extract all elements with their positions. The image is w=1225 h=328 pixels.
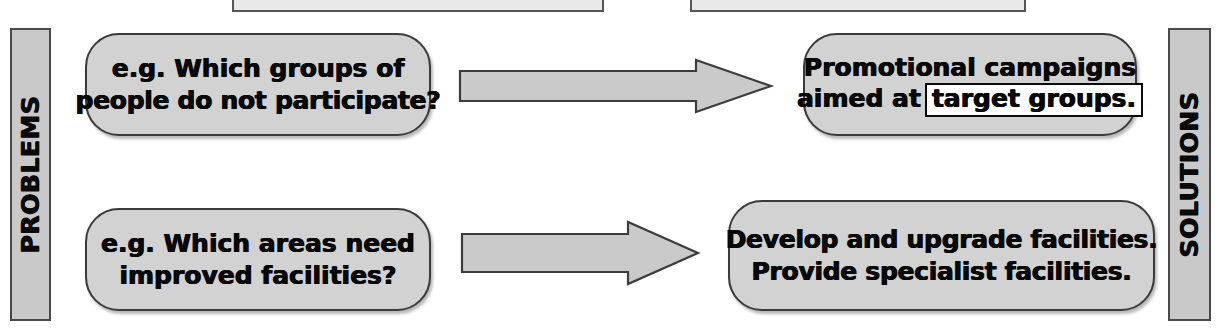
solutions-column-label: SOLUTIONS	[1175, 92, 1204, 258]
solutions-column-bar: SOLUTIONS	[1168, 28, 1211, 321]
flow-arrow-2	[460, 220, 700, 286]
problem-box-1: e.g. Which groups of people do not parti…	[85, 33, 431, 136]
problem-box-1-line-2: people do not participate?	[76, 85, 441, 117]
solution-box-1: Promotional campaigns aimed attarget gro…	[803, 33, 1137, 136]
problems-solutions-diagram: PROBLEMS SOLUTIONS e.g. Which groups of …	[0, 0, 1225, 328]
flow-arrow-2-shape	[462, 222, 698, 284]
problems-column-label: PROBLEMS	[16, 96, 45, 254]
solution-box-1-line-2-prefix: aimed at	[797, 84, 921, 113]
problem-box-2-line-1: e.g. Which areas need	[101, 228, 415, 260]
problem-box-2: e.g. Which areas need improved facilitie…	[85, 208, 431, 311]
flow-arrow-1-shape	[460, 60, 771, 112]
solution-box-1-highlighted-term: target groups.	[925, 83, 1143, 117]
top-clipped-box-left	[232, 0, 604, 12]
problem-box-1-line-1: e.g. Which groups of	[112, 53, 405, 85]
solution-box-2-line-1: Develop and upgrade facilities.	[726, 224, 1158, 256]
flow-arrow-1	[458, 58, 773, 114]
problems-column-bar: PROBLEMS	[10, 28, 51, 321]
solution-box-2: Develop and upgrade facilities. Provide …	[728, 200, 1155, 311]
solution-box-1-line-1: Promotional campaigns	[804, 52, 1136, 84]
clipped-top-text	[0, 0, 232, 6]
problem-box-2-line-2: improved facilities?	[119, 260, 396, 292]
top-clipped-box-right	[690, 0, 1026, 12]
solution-box-2-line-2: Provide specialist facilities.	[751, 256, 1131, 288]
